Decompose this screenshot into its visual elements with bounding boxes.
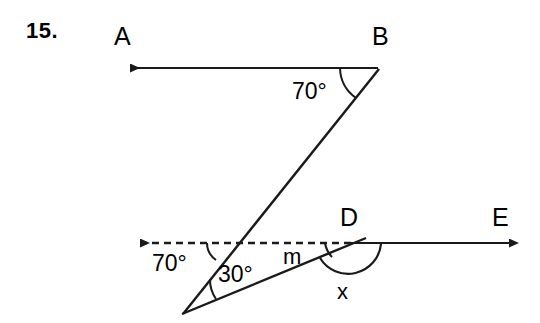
geometry-figure [0,0,540,323]
diagram-page: 15. A B D E 70° 70° 30° m x [0,0,540,323]
point-label-d: D [340,205,358,230]
angle-label-30-at-vertex: 30° [218,263,253,286]
point-label-e: E [492,205,509,230]
problem-number: 15. [26,20,58,42]
point-label-b: B [372,24,389,49]
angle-label-70-at-b: 70° [292,80,327,103]
arc-70-at-B [340,68,356,98]
transversal-line [183,69,379,314]
arc-x-at-D [320,244,381,274]
point-label-a: A [114,24,131,49]
angle-label-70-at-intersection: 70° [152,252,187,275]
arc-30-at-vertex [210,279,216,299]
angle-label-x-at-d: x [337,281,348,303]
arc-70-at-intersection [207,243,216,260]
angle-label-m-at-d: m [283,246,301,268]
